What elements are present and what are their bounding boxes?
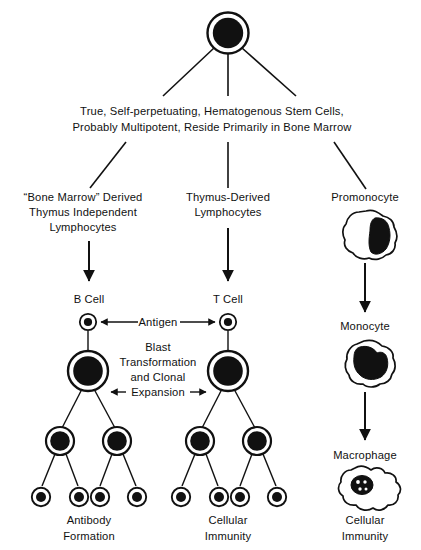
promonocyte-cell <box>343 210 397 259</box>
b-effector-cell-1 <box>32 488 50 506</box>
blast-label-line-2: Transformation <box>120 356 197 368</box>
b-effector-1-nucleus <box>36 492 46 502</box>
t-div2-line-3 <box>240 454 252 486</box>
t-div2-line-4 <box>263 454 276 486</box>
macrophage-vacuole-2 <box>363 480 366 483</box>
t-div2-line-2 <box>206 454 218 486</box>
t-blast-nucleus <box>213 356 243 386</box>
branch-m-stage3-label: Macrophage <box>333 449 397 461</box>
b-div2-line-1 <box>42 454 55 486</box>
t-effector-cell-1 <box>172 488 190 506</box>
t-daughter-cell-1 <box>186 427 214 455</box>
branch-t-outcome-line-1: Cellular <box>208 514 247 526</box>
b-effector-cell-4 <box>128 488 146 506</box>
blast-transformation-annotation: Blast Transformation and Clonal Expansio… <box>111 341 206 398</box>
blast-label-line-4: Expansion <box>131 386 185 398</box>
stem-cell-caption: True, Self-perpetuating, Hematogenous St… <box>72 105 352 133</box>
branch-m-stage2-label: Monocyte <box>340 320 390 332</box>
t-daughter-1-nucleus <box>190 431 210 451</box>
stem-caption-line-2: Probably Multipotent, Reside Primarily i… <box>72 121 352 133</box>
b-div2-line-2 <box>66 454 78 486</box>
b-daughter-cell-1 <box>46 427 74 455</box>
b-div2-line-4 <box>123 454 136 486</box>
b-daughter-cell-2 <box>103 427 131 455</box>
branch-b-outcome-line-1: Antibody <box>67 514 112 526</box>
b-div-line-2 <box>94 389 115 428</box>
t-effector-1-nucleus <box>176 492 186 502</box>
b-div-line-1 <box>62 389 82 428</box>
stem-cell-fan-lines <box>163 48 296 96</box>
b-effector-4-nucleus <box>132 492 142 502</box>
branch-b-header: “Bone Marrow” Derived Thymus Independent… <box>24 191 143 233</box>
branch-m-label-line-1: Promonocyte <box>331 191 399 203</box>
t-effector-2-nucleus <box>214 492 224 502</box>
antigen-label: Antigen <box>139 316 178 328</box>
t-div2-line-1 <box>182 454 195 486</box>
lineage-line-b <box>90 142 126 188</box>
macrophage-cell <box>339 466 401 510</box>
b-cell-small <box>80 314 96 330</box>
t-daughter-2-nucleus <box>247 431 267 451</box>
branch-t-label-line-2: Lymphocytes <box>194 206 261 218</box>
t-effector-cell-2 <box>210 488 228 506</box>
branch-m-outcome-line-2: Immunity <box>342 530 389 542</box>
b-blast-nucleus <box>73 356 103 386</box>
stem-cell <box>208 13 249 54</box>
branch-b-outcome-line-2: Formation <box>63 530 115 542</box>
stem-caption-line-1: True, Self-perpetuating, Hematogenous St… <box>80 105 344 117</box>
branch-m-outcome-line-1: Cellular <box>345 514 384 526</box>
branch-t-header: Thymus-Derived Lymphocytes <box>186 191 270 218</box>
b-effector-cell-3 <box>91 488 109 506</box>
b-blast-cell <box>68 351 108 391</box>
branch-b-cell-label: B Cell <box>74 293 105 305</box>
macrophage-nucleus <box>351 476 373 495</box>
t-cell-small <box>220 314 236 330</box>
b-effector-2-nucleus <box>74 492 84 502</box>
macrophage-vacuole-1 <box>356 480 360 484</box>
b-div2-line-3 <box>100 454 112 486</box>
t-effector-4-nucleus <box>272 492 282 502</box>
lineage-diagram: True, Self-perpetuating, Hematogenous St… <box>0 0 421 550</box>
branch-t-cell-label: T Cell <box>213 293 243 305</box>
monocyte-cell <box>345 340 395 387</box>
blast-label-line-1: Blast <box>145 341 171 353</box>
b-division-lines-tier2 <box>42 454 136 486</box>
t-blast-cell <box>208 351 248 391</box>
t-effector-cell-3 <box>231 488 249 506</box>
stem-cell-nucleus <box>213 18 243 48</box>
blast-label-line-3: and Clonal <box>131 371 186 383</box>
lineage-line-m <box>334 142 366 189</box>
branch-t-label-line-1: Thymus-Derived <box>186 191 270 203</box>
branch-b-label-line-1: “Bone Marrow” Derived <box>24 191 143 203</box>
b-effector-3-nucleus <box>95 492 105 502</box>
branch-t-outcome-line-2: Immunity <box>205 530 252 542</box>
lineage-fan-lines <box>90 142 366 189</box>
b-effector-cell-2 <box>70 488 88 506</box>
t-division-lines-tier2 <box>182 454 276 486</box>
b-daughter-2-nucleus <box>107 431 127 451</box>
branch-b-label-line-3: Lymphocytes <box>49 221 116 233</box>
t-div-line-1 <box>202 389 222 428</box>
t-cell-nucleus <box>224 318 232 326</box>
t-division-lines-tier1 <box>202 389 255 428</box>
fan-line-right <box>242 48 296 96</box>
b-daughter-1-nucleus <box>50 431 70 451</box>
macrophage-vacuole-3 <box>358 487 361 490</box>
t-effector-cell-4 <box>268 488 286 506</box>
macrophage-vacuole-4 <box>365 488 368 491</box>
b-cell-nucleus <box>84 318 92 326</box>
branch-b-label-line-2: Thymus Independent <box>29 206 138 218</box>
antigen-annotation: Antigen <box>101 316 215 328</box>
t-effector-3-nucleus <box>235 492 245 502</box>
t-daughter-cell-2 <box>243 427 271 455</box>
b-division-lines-tier1 <box>62 389 115 428</box>
t-div-line-2 <box>234 389 255 428</box>
fan-line-left <box>163 48 214 96</box>
